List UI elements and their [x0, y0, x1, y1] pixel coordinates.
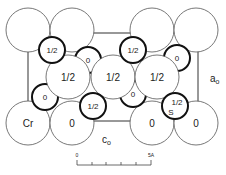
atom-label: 1/2 [46, 46, 58, 55]
atom-label: Cr [23, 118, 34, 129]
atom-label: 0 [43, 93, 48, 102]
scale-start-label: 0 [76, 152, 79, 158]
crystal-structure-diagram: 1/2 1/2 1/2 Cr 0 0 0 1/2 1/2 0 0 0 1/2 0… [0, 0, 226, 175]
atom-label: 0 [86, 56, 91, 65]
atom-label: 0 [69, 118, 75, 129]
atom-label: 0 [193, 118, 199, 129]
atom-label: 0 [131, 90, 136, 99]
scale-bar [77, 160, 151, 165]
atom-label: 1/2 [150, 72, 164, 83]
atom-label: 1/2 [106, 72, 120, 83]
atom-label: 1/2 [87, 102, 99, 111]
atom-label: 0 [175, 54, 180, 63]
atom-label: 0 [149, 118, 155, 129]
atom-label-s: S [168, 108, 173, 117]
atom-label: 1/2 [127, 46, 139, 55]
atom-label: 1/2 [61, 72, 75, 83]
atom-label: 1/2 [171, 98, 183, 107]
axis-label-c: co [102, 134, 111, 146]
scale-end-label: 5A [148, 152, 155, 158]
axis-label-a: ao [210, 73, 220, 85]
